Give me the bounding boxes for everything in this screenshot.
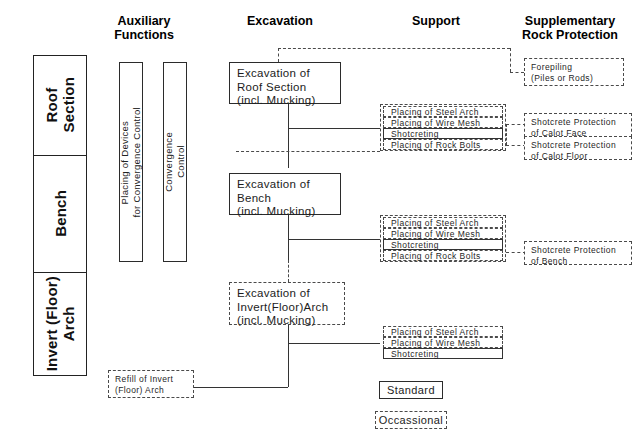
excavation-bench-line3: (incl. Mucking) [237,205,334,219]
aux-label-placing-devices: Placing of Devicesfor Convergence Contro… [119,107,143,217]
connector-roof-to-forepiling-v2 [510,48,511,72]
support-group-invert: Placing of Steel Arch Placing of Wire Me… [383,326,503,359]
support-row-wire-mesh: Placing of Wire Mesh [383,228,503,239]
rock-protection-forepiling: Forepiling (Piles or Rods) [524,58,624,86]
column-header-supplementary-rock-protection: Supplementary Rock Protection [506,14,634,42]
excavation-invert-line3: (incl. Mucking) [237,314,338,328]
support-row-shotcreting: Shotcreting [383,348,503,359]
support-row-rock-bolts: Placing of Rock Bolts [383,250,503,261]
rock-protection-bench: Shotcrete Protection of Bench [524,241,632,265]
excavation-roof-line2: Roof Section [237,81,334,95]
refill-invert-box: Refill of Invert (Floor) Arch [108,370,194,398]
rock-protection-calot-floor: Shotcrete Protection of Calot Floor [524,136,632,160]
calot-floor-line2: of Calot Floor [531,151,627,162]
aux-label-convergence-control: ConvergenceControl [163,132,187,192]
excavation-bench-line2: Bench [237,192,334,206]
excavation-box-invert-floor-arch: Excavation of Invert(Floor)Arch (incl. M… [229,282,345,325]
connector-bench-to-invert [288,260,289,282]
column-header-support: Support [376,14,496,28]
rock-protection-calot-face: Shotcrete Protection of Calot Face [524,113,632,137]
section-label-roof: RoofSection [43,77,77,133]
connector-roof-to-bench-spine [288,103,289,168]
column-header-supplementary-line2: Rock Protection [506,28,634,42]
calot-face-line1: Shotcrete Protection [531,117,627,128]
connector-roof-to-forepiling-h2 [510,72,524,73]
refill-line1: Refill of Invert [115,374,189,385]
support-row-shotcreting: Shotcreting [383,128,503,139]
excavation-invert-line1: Excavation of [237,287,338,301]
support-row-wire-mesh: Placing of Wire Mesh [383,337,503,348]
refill-line2: (Floor) Arch [115,385,189,396]
legend-occassional: Occassional [375,411,447,429]
support-row-steel-arch: Placing of Steel Arch [383,106,503,117]
diagram-canvas: Auxiliary Functions Excavation Support S… [0,0,642,447]
connector-roof-to-forepiling-h [278,48,510,49]
excavation-roof-line3: (incl. Mucking) [237,94,334,108]
connector-bench-support-to-bench-protection [506,252,526,253]
calot-floor-line1: Shotcrete Protection [531,140,627,151]
excavation-invert-line2: Invert(Floor)Arch [237,301,338,315]
support-row-shotcreting: Shotcreting [383,239,503,250]
column-header-auxiliary-functions: Auxiliary Functions [98,14,190,42]
connector-roof-enclosure-tail [236,151,380,152]
support-row-steel-arch: Placing of Steel Arch [383,326,503,337]
connector-roof-to-forepiling-v1 [278,48,279,62]
forepiling-line1: Forepiling [531,62,619,73]
connector-roof-support-to-calot-floor [506,145,526,146]
forepiling-line2: (Piles or Rods) [531,73,619,84]
aux-box-placing-devices: Placing of Devicesfor Convergence Contro… [119,62,143,262]
connector-invert-to-support [288,343,380,344]
column-header-supplementary-line1: Supplementary [506,14,634,28]
section-row-roof: RoofSection [33,55,87,155]
aux-box-convergence-control: ConvergenceControl [163,62,187,262]
excavation-box-bench: Excavation of Bench (incl. Mucking) [229,173,341,215]
bench-protection-line1: Shotcrete Protection [531,245,627,256]
connector-roof-to-support [288,128,380,129]
connector-roof-support-branch [506,124,507,145]
section-row-invert: Invert (Floor)Arch [33,272,87,376]
support-group-roof: Placing of Steel Arch Placing of Wire Me… [383,106,503,150]
support-row-steel-arch: Placing of Steel Arch [383,217,503,228]
excavation-roof-line1: Excavation of [237,67,334,81]
excavation-bench-line1: Excavation of [237,178,334,192]
bench-protection-line2: of Bench [531,256,627,267]
connector-invert-to-refill [192,387,288,388]
excavation-box-roof-section: Excavation of Roof Section (incl. Muckin… [229,62,341,104]
support-group-bench: Placing of Steel Arch Placing of Wire Me… [383,217,503,261]
support-row-rock-bolts: Placing of Rock Bolts [383,139,503,150]
section-label-invert: Invert (Floor)Arch [43,276,77,371]
column-header-auxiliary-line2: Functions [98,28,190,42]
connector-bench-to-support [288,239,380,240]
column-header-auxiliary-line1: Auxiliary [98,14,190,28]
connector-bench-spine [288,214,289,260]
column-header-excavation: Excavation [220,14,340,28]
section-label-bench: Bench [52,190,69,237]
connector-roof-support-to-calot-face [506,124,526,125]
legend-standard: Standard [379,381,443,399]
support-row-wire-mesh: Placing of Wire Mesh [383,117,503,128]
connector-invert-spine [288,325,289,387]
section-row-bench: Bench [33,155,87,272]
